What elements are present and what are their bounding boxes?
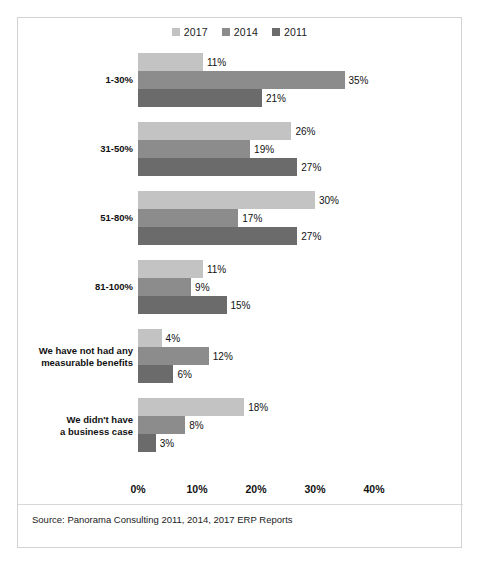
bar-row: 21% bbox=[138, 89, 374, 107]
bar-value-label: 4% bbox=[162, 333, 180, 344]
bar-value-label: 27% bbox=[297, 231, 321, 242]
legend-swatch-2017 bbox=[172, 28, 180, 36]
bar-value-label: 27% bbox=[297, 162, 321, 173]
bar-group: We have not had anymeasurable benefits4%… bbox=[18, 329, 463, 383]
x-axis: 0%10%20%30%40% bbox=[138, 483, 438, 499]
bar-2011[interactable] bbox=[138, 434, 156, 452]
bar-row: 12% bbox=[138, 347, 374, 365]
bar-2014[interactable] bbox=[138, 71, 345, 89]
bar-value-label: 21% bbox=[262, 93, 286, 104]
bar-2017[interactable] bbox=[138, 53, 203, 71]
bar-value-label: 26% bbox=[291, 126, 315, 137]
chart-card: 2017 2014 2011 1-30%11%35%21%31-50%26%19… bbox=[17, 17, 462, 548]
bar-value-label: 15% bbox=[227, 300, 251, 311]
category-label: 1-30% bbox=[21, 74, 133, 86]
x-axis-tick: 40% bbox=[363, 483, 384, 495]
bar-value-label: 30% bbox=[315, 195, 339, 206]
bar-group: 81-100%11%9%15% bbox=[18, 260, 463, 314]
bar-row: 9% bbox=[138, 278, 374, 296]
category-label-line: We didn't have bbox=[21, 414, 133, 426]
bar-value-label: 35% bbox=[345, 75, 369, 86]
legend-label-2011: 2011 bbox=[284, 27, 307, 38]
category-label-line: 31-50% bbox=[21, 143, 133, 155]
bar-row: 18% bbox=[138, 398, 374, 416]
bar-group: 31-50%26%19%27% bbox=[18, 122, 463, 176]
bar-value-label: 19% bbox=[250, 144, 274, 155]
bar-2011[interactable] bbox=[138, 365, 173, 383]
legend-swatch-2014 bbox=[222, 28, 230, 36]
bar-2014[interactable] bbox=[138, 347, 209, 365]
bar-2014[interactable] bbox=[138, 278, 191, 296]
x-axis-tick: 20% bbox=[245, 483, 266, 495]
bar-2011[interactable] bbox=[138, 296, 227, 314]
bar-row: 26% bbox=[138, 122, 374, 140]
bar-2014[interactable] bbox=[138, 140, 250, 158]
bar-row: 19% bbox=[138, 140, 374, 158]
legend-label-2014: 2014 bbox=[234, 27, 258, 38]
category-label-line: 81-100% bbox=[21, 281, 133, 293]
source-note: Source: Panorama Consulting 2011, 2014, … bbox=[32, 514, 293, 525]
bar-row: 6% bbox=[138, 365, 374, 383]
plot-area: 1-30%11%35%21%31-50%26%19%27%51-80%30%17… bbox=[18, 51, 463, 471]
bar-value-label: 12% bbox=[209, 351, 233, 362]
category-label-line: We have not had any bbox=[21, 345, 133, 357]
bar-row: 4% bbox=[138, 329, 374, 347]
legend-item-2014: 2014 bbox=[222, 27, 258, 38]
bar-value-label: 11% bbox=[203, 57, 226, 68]
category-label: 31-50% bbox=[21, 143, 133, 155]
x-axis-tick: 0% bbox=[130, 483, 145, 495]
category-label: 51-80% bbox=[21, 212, 133, 224]
bar-row: 11% bbox=[138, 260, 374, 278]
bar-value-label: 3% bbox=[156, 438, 174, 449]
bar-2014[interactable] bbox=[138, 416, 185, 434]
bar-2017[interactable] bbox=[138, 122, 291, 140]
category-label: 81-100% bbox=[21, 281, 133, 293]
bar-2011[interactable] bbox=[138, 227, 297, 245]
bar-value-label: 6% bbox=[173, 369, 191, 380]
category-label-line: a business case bbox=[21, 425, 133, 437]
bar-row: 27% bbox=[138, 158, 374, 176]
legend-label-2017: 2017 bbox=[184, 27, 208, 38]
bar-2017[interactable] bbox=[138, 191, 315, 209]
legend-swatch-2011 bbox=[272, 28, 280, 36]
x-axis-tick: 10% bbox=[186, 483, 207, 495]
bar-group: 1-30%11%35%21% bbox=[18, 53, 463, 107]
bar-value-label: 11% bbox=[203, 264, 226, 275]
category-label: We have not had anymeasurable benefits bbox=[21, 345, 133, 368]
legend-item-2011: 2011 bbox=[272, 27, 307, 38]
category-label-line: 1-30% bbox=[21, 74, 133, 86]
bar-value-label: 8% bbox=[185, 420, 203, 431]
category-label-line: 51-80% bbox=[21, 212, 133, 224]
bar-row: 17% bbox=[138, 209, 374, 227]
bar-row: 8% bbox=[138, 416, 374, 434]
bar-2017[interactable] bbox=[138, 398, 244, 416]
bar-2017[interactable] bbox=[138, 329, 162, 347]
bar-2017[interactable] bbox=[138, 260, 203, 278]
legend-item-2017: 2017 bbox=[172, 27, 208, 38]
category-label: We didn't havea business case bbox=[21, 414, 133, 437]
bar-row: 11% bbox=[138, 53, 374, 71]
bar-row: 3% bbox=[138, 434, 374, 452]
chart-legend: 2017 2014 2011 bbox=[18, 27, 461, 38]
bar-row: 15% bbox=[138, 296, 374, 314]
source-divider bbox=[18, 504, 463, 505]
bar-value-label: 17% bbox=[238, 213, 262, 224]
bar-2011[interactable] bbox=[138, 158, 297, 176]
bar-row: 27% bbox=[138, 227, 374, 245]
x-axis-tick: 30% bbox=[304, 483, 325, 495]
bar-row: 30% bbox=[138, 191, 374, 209]
bar-2011[interactable] bbox=[138, 89, 262, 107]
bar-group: 51-80%30%17%27% bbox=[18, 191, 463, 245]
bar-2014[interactable] bbox=[138, 209, 238, 227]
bar-row: 35% bbox=[138, 71, 374, 89]
bar-group: We didn't havea business case18%8%3% bbox=[18, 398, 463, 452]
bar-value-label: 18% bbox=[244, 402, 268, 413]
bar-value-label: 9% bbox=[191, 282, 209, 293]
category-label-line: measurable benefits bbox=[21, 356, 133, 368]
